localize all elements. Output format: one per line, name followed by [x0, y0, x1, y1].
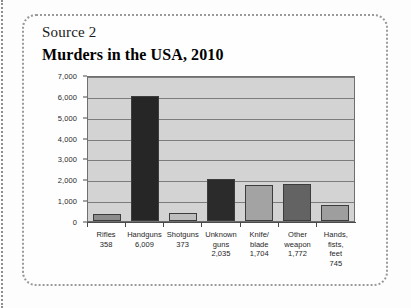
y-axis-tick-label: 6,000	[37, 92, 77, 101]
bar-chart: 01,0002,0003,0004,0005,0006,0007,000 Rif…	[42, 76, 372, 271]
x-axis-category-label: Unknownguns2,035	[202, 230, 240, 268]
x-axis-tick-mark	[317, 222, 355, 227]
bar	[283, 184, 312, 221]
x-axis-category-label: Otherweapon1,772	[278, 230, 316, 268]
x-axis-tick-mark	[164, 222, 202, 227]
x-axis-tick-mark	[125, 222, 163, 227]
bar	[207, 179, 236, 221]
bar-slot	[240, 77, 278, 221]
bar-slot	[126, 77, 164, 221]
bar	[245, 185, 274, 221]
source-card: Source 2 Murders in the USA, 2010 01,000…	[22, 14, 388, 286]
category-value: 6,009	[126, 240, 162, 250]
category-value: 2,035	[203, 249, 239, 259]
plot-area	[87, 76, 355, 222]
y-axis-tick-label: 3,000	[37, 155, 77, 164]
chart-title: Murders in the USA, 2010	[42, 46, 224, 64]
y-axis-tick-label: 0	[37, 218, 77, 227]
category-name-line: weapon	[279, 240, 315, 250]
y-axis-tick-label: 1,000	[37, 197, 77, 206]
x-axis-ticks	[87, 222, 355, 227]
category-name-line: Rifles	[88, 230, 124, 240]
x-axis-category-label: Knife/blade1,704	[240, 230, 278, 268]
category-name-line: Handguns	[126, 230, 162, 240]
bar-slot	[202, 77, 240, 221]
bar	[321, 205, 350, 221]
category-value: 1,704	[241, 249, 277, 259]
bar-slot	[278, 77, 316, 221]
category-name-line: Other	[279, 230, 315, 240]
category-value: 745	[318, 259, 354, 269]
category-value: 373	[165, 240, 201, 250]
category-name-line: Unknown	[203, 230, 239, 240]
bar	[131, 96, 160, 221]
x-axis-tick-mark	[202, 222, 240, 227]
x-axis-tick-mark	[278, 222, 316, 227]
category-name-line: feet	[318, 249, 354, 259]
x-axis-category-label: Shotguns373	[164, 230, 202, 268]
category-name-line: Hands,	[318, 230, 354, 240]
bar-series	[88, 77, 354, 221]
bar-slot	[88, 77, 126, 221]
category-name-line: Shotguns	[165, 230, 201, 240]
bar-slot	[164, 77, 202, 221]
category-name-line: Knife/	[241, 230, 277, 240]
bar-slot	[316, 77, 354, 221]
x-axis-tick-mark	[240, 222, 278, 227]
x-axis-tick-mark	[87, 222, 125, 227]
x-axis-category-label: Handguns6,009	[125, 230, 163, 268]
y-axis: 01,0002,0003,0004,0005,0006,0007,000	[42, 76, 83, 228]
page-edge-dotted-rule	[1, 0, 3, 308]
x-axis-category-label: Rifles358	[87, 230, 125, 268]
category-name-line: blade	[241, 240, 277, 250]
category-name-line: fists,	[318, 240, 354, 250]
category-value: 1,772	[279, 249, 315, 259]
y-axis-tick-label: 7,000	[37, 72, 77, 81]
y-axis-tick-label: 4,000	[37, 134, 77, 143]
source-label: Source 2	[42, 24, 97, 41]
y-axis-tick-label: 2,000	[37, 176, 77, 185]
bar	[169, 213, 198, 221]
x-axis-labels: Rifles358Handguns6,009Shotguns373Unknown…	[87, 230, 355, 268]
x-axis-category-label: Hands,fists,feet745	[317, 230, 355, 268]
category-value: 358	[88, 240, 124, 250]
category-name-line: guns	[203, 240, 239, 250]
bar	[93, 214, 122, 221]
y-axis-tick-label: 5,000	[37, 113, 77, 122]
